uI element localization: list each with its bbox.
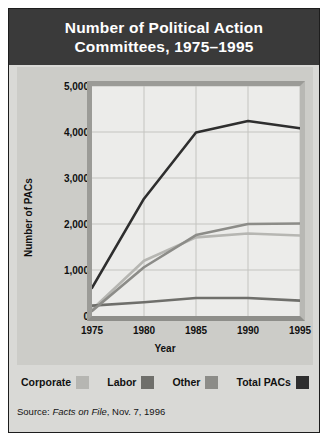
y-tick-label: 5,000 <box>29 81 89 92</box>
chart-figure: Number of Political Action Committees, 1… <box>8 8 320 433</box>
x-tick-label: 1975 <box>69 325 115 336</box>
x-tick-label: 1980 <box>121 325 167 336</box>
legend-swatch <box>141 376 154 389</box>
chart-title-line-1: Number of Political Action <box>65 18 263 37</box>
x-tick-label: 1990 <box>225 325 271 336</box>
x-axis-title: Year <box>17 343 313 354</box>
legend-item-other: Other <box>172 376 218 389</box>
chart-title-line-2: Committees, 1975–1995 <box>74 37 253 56</box>
legend-label: Other <box>172 376 200 388</box>
plot-area <box>87 81 305 321</box>
x-tick-label: 1985 <box>173 325 219 336</box>
y-tick-label: 3,000 <box>29 173 89 184</box>
legend-item-total-pacs: Total PACs <box>237 376 309 389</box>
legend-item-labor: Labor <box>107 376 154 389</box>
legend-label: Labor <box>107 376 136 388</box>
source-publication: Facts on File <box>52 406 106 417</box>
x-tick-label: 1995 <box>277 325 323 336</box>
chart-lines <box>92 86 300 316</box>
plot-panel: Number of PACs 01,0002,0003,0004,0005,00… <box>17 67 313 365</box>
legend-item-corporate: Corporate <box>21 376 89 389</box>
y-tick-label: 2,000 <box>29 219 89 230</box>
chart-title-banner: Number of Political Action Committees, 1… <box>9 9 319 65</box>
legend-swatch <box>296 376 309 389</box>
legend-label: Total PACs <box>237 376 291 388</box>
y-tick-label: 0 <box>29 311 89 322</box>
legend-label: Corporate <box>21 376 71 388</box>
y-tick-label: 1,000 <box>29 265 89 276</box>
legend-swatch <box>76 376 89 389</box>
y-tick-label: 4,000 <box>29 127 89 138</box>
source-note: Source: Facts on File, Nov. 7, 1996 <box>17 406 165 417</box>
source-bar: Source: Facts on File, Nov. 7, 1996 <box>17 399 313 423</box>
chart-legend: CorporateLaborOtherTotal PACs <box>17 369 313 395</box>
legend-swatch <box>205 376 218 389</box>
